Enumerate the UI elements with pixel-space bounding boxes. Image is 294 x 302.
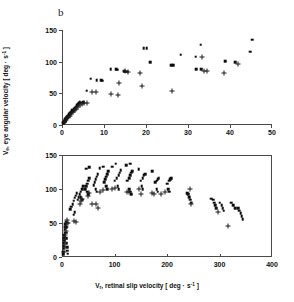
data-point-square [116, 69, 119, 72]
data-point-plus [95, 206, 100, 211]
data-point-square [65, 117, 68, 120]
data-point-plus [93, 201, 98, 206]
data-point-square [239, 212, 242, 215]
data-point-square [77, 103, 80, 106]
data-point-square [210, 197, 213, 200]
data-point-square [117, 188, 120, 191]
data-point-square [188, 196, 191, 199]
data-point-square [72, 110, 75, 113]
data-point-square [64, 118, 67, 121]
data-point-plus [66, 221, 71, 226]
data-point-square [63, 229, 66, 232]
data-point-plus [69, 111, 74, 116]
data-point-square [100, 79, 103, 82]
data-point-square [94, 178, 97, 181]
y-tick-mark [59, 155, 62, 156]
x-tick-label: 100 [109, 261, 121, 268]
data-point-plus [64, 225, 69, 230]
data-point-square [116, 185, 119, 188]
y-tick-label: 150 [45, 27, 57, 34]
data-point-square [89, 77, 92, 80]
data-point-square [72, 214, 75, 217]
data-point-square [73, 211, 76, 214]
data-point-square [94, 188, 97, 191]
x-tick-mark [115, 254, 116, 257]
data-point-plus [78, 199, 83, 204]
data-point-square [80, 190, 83, 193]
data-point-square [234, 207, 237, 210]
data-point-square [65, 117, 68, 120]
data-point-square [105, 175, 108, 178]
data-point-square [82, 101, 85, 104]
data-point-square [73, 107, 76, 110]
data-point-plus [136, 187, 141, 192]
data-point-square [189, 199, 192, 202]
data-point-square [251, 38, 254, 41]
data-point-square [194, 55, 197, 58]
data-point-square [128, 188, 131, 191]
data-point-plus [112, 185, 117, 190]
data-point-plus [64, 221, 69, 226]
data-point-plus [109, 91, 114, 96]
data-point-square [234, 61, 237, 64]
data-point-square [82, 185, 85, 188]
data-point-square [238, 209, 241, 212]
y-axis-title-subscript: e [5, 148, 10, 151]
data-point-plus [162, 189, 167, 194]
data-point-square [72, 108, 75, 111]
data-point-plus [77, 201, 82, 206]
data-point-square [166, 182, 169, 185]
data-point-square [86, 182, 89, 185]
data-point-plus [158, 192, 163, 197]
x-tick-mark [271, 125, 272, 128]
data-point-plus [65, 218, 70, 223]
data-point-square [151, 170, 154, 173]
data-point-square [130, 193, 133, 196]
data-point-plus [127, 189, 132, 194]
top-plot-x-axis-line [62, 124, 272, 125]
data-point-square [99, 167, 102, 170]
data-point-square [168, 180, 171, 183]
data-point-plus [189, 201, 194, 206]
panel-letter-b: b [58, 6, 64, 18]
data-point-square [65, 226, 68, 229]
data-point-plus [90, 201, 95, 206]
x-tick-label: 0 [60, 261, 64, 268]
data-point-square [129, 190, 132, 193]
data-point-square [76, 104, 79, 107]
data-point-square [73, 197, 76, 200]
x-tick-mark [167, 254, 168, 257]
data-point-square [64, 220, 67, 223]
y-tick-mark [59, 30, 62, 31]
data-point-square [107, 170, 110, 173]
data-point-square [143, 47, 146, 50]
data-point-square [220, 204, 223, 207]
data-point-square [222, 209, 225, 212]
data-point-plus [110, 187, 115, 192]
y-tick-label: 100 [45, 58, 57, 65]
x-tick-label: 30 [184, 129, 192, 136]
x-tick-mark [62, 125, 63, 128]
data-point-square [180, 53, 183, 56]
x-tick-mark [230, 125, 231, 128]
data-point-square [65, 231, 68, 234]
data-point-plus [152, 192, 157, 197]
data-point-plus [85, 100, 90, 105]
data-point-square [195, 68, 198, 71]
data-point-square [69, 112, 72, 115]
data-point-plus [66, 114, 71, 119]
data-point-square [66, 115, 69, 118]
data-point-square [78, 196, 81, 199]
x-tick-label: 40 [226, 129, 234, 136]
data-point-square [65, 242, 68, 245]
data-point-square [149, 61, 152, 64]
y-tick-label: 50 [49, 220, 57, 227]
data-point-square [186, 192, 189, 195]
data-point-square [114, 163, 117, 166]
data-point-plus [89, 90, 94, 95]
data-point-square [232, 204, 235, 207]
y-axis-title-symbol: V [2, 151, 9, 155]
data-point-square [125, 164, 128, 167]
x-tick-mark [271, 254, 272, 257]
data-point-square [113, 180, 116, 183]
